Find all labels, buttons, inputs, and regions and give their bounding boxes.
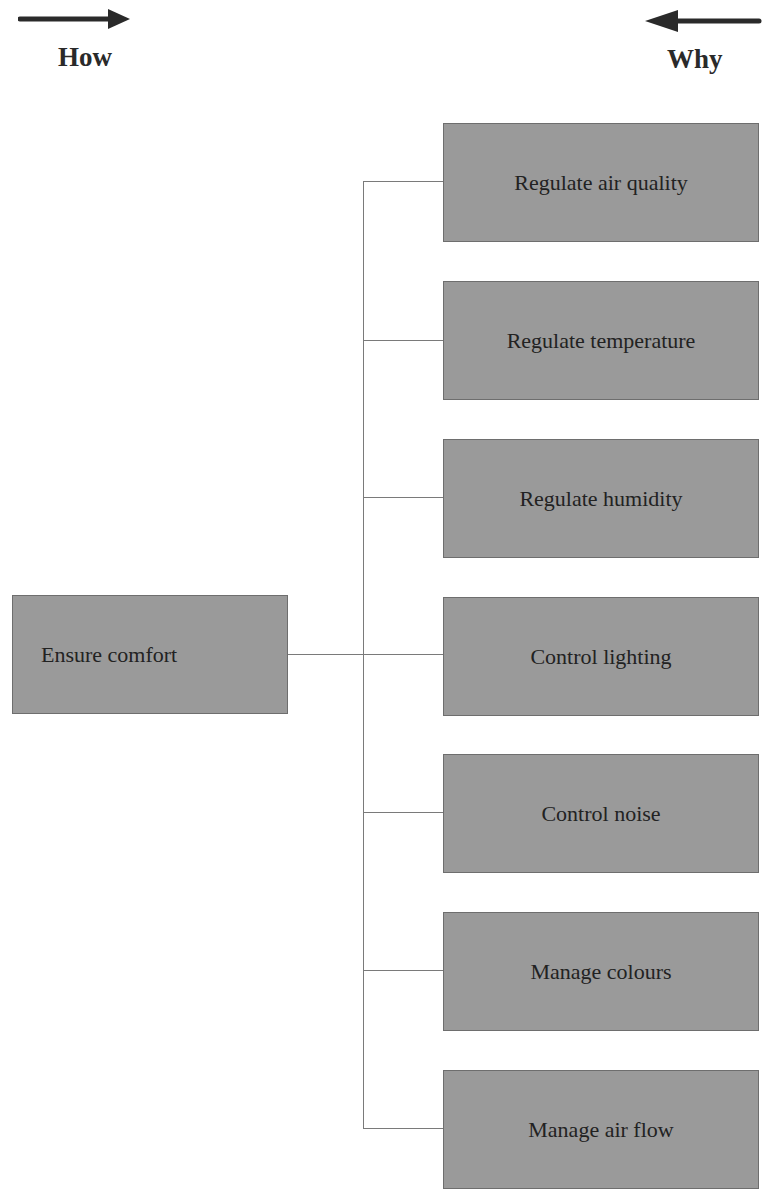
child-node-label: Manage colours	[530, 959, 671, 985]
child-node-regulate-air-quality: Regulate air quality	[443, 123, 759, 242]
branch-connector	[363, 1128, 443, 1129]
root-node-label: Ensure comfort	[41, 642, 177, 668]
child-node-manage-air-flow: Manage air flow	[443, 1070, 759, 1189]
branch-connector	[363, 497, 443, 498]
child-node-label: Regulate temperature	[507, 328, 696, 354]
child-node-manage-colours: Manage colours	[443, 912, 759, 1031]
branch-connector	[363, 812, 443, 813]
why-label: Why	[667, 44, 723, 75]
how-arrow-icon	[18, 8, 133, 30]
branch-connector	[363, 970, 443, 971]
branch-connector	[363, 181, 443, 182]
child-node-label: Control lighting	[530, 644, 671, 670]
child-node-label: Regulate humidity	[519, 486, 682, 512]
child-node-regulate-humidity: Regulate humidity	[443, 439, 759, 558]
how-label: How	[58, 42, 112, 73]
root-connector	[288, 654, 443, 655]
child-node-regulate-temperature: Regulate temperature	[443, 281, 759, 400]
child-node-label: Control noise	[541, 801, 660, 827]
branch-connector	[363, 340, 443, 341]
child-node-control-noise: Control noise	[443, 754, 759, 873]
child-node-label: Regulate air quality	[514, 170, 688, 196]
trunk-connector	[363, 181, 364, 1129]
child-node-label: Manage air flow	[528, 1117, 673, 1143]
why-arrow-icon	[643, 8, 763, 38]
child-node-control-lighting: Control lighting	[443, 597, 759, 716]
root-node: Ensure comfort	[12, 595, 288, 714]
